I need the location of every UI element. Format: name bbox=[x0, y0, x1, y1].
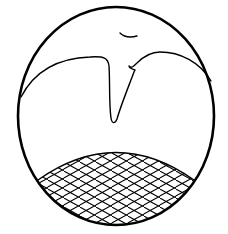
diagram-figure bbox=[0, 0, 228, 234]
